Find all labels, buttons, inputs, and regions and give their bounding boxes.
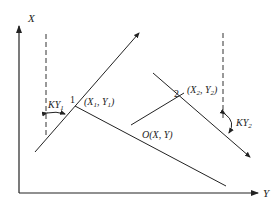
- angle-ky1-label: KY1: [47, 99, 64, 112]
- point-2-coordinates: (X2, Y2): [187, 84, 218, 97]
- angle-ky1-arc: [47, 112, 65, 114]
- point-1-coordinates: (X1, Y1): [84, 96, 115, 109]
- angle-ky2-arc: [225, 114, 232, 133]
- line-through-point-1: [35, 33, 139, 152]
- line-point1-to-lower-right: [75, 106, 226, 186]
- coordinate-diagram: X Y 1 (X1, Y1) KY1 2 (X2, Y2) KY2 O(X, Y…: [0, 0, 278, 207]
- point-2-number: 2: [174, 88, 179, 99]
- y-axis-label: Y: [263, 187, 271, 199]
- angle-ky2-label: KY2: [235, 117, 252, 130]
- origin-label: O(X, Y): [142, 129, 173, 141]
- point-1-number: 1: [70, 94, 75, 105]
- x-axis-label: X: [27, 12, 36, 24]
